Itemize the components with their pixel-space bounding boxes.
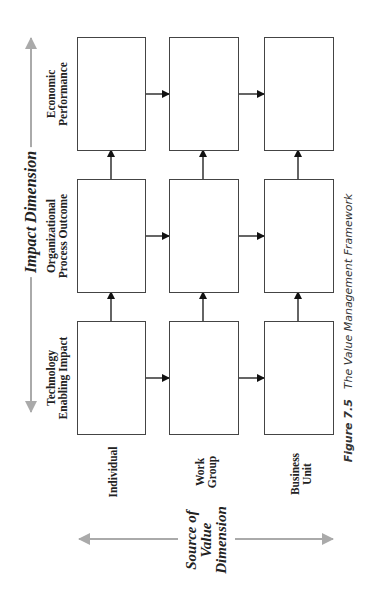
row-label-technology-enabling-impact: Technology Enabling Impact: [45, 337, 69, 420]
cell-economic-individual: [77, 37, 146, 151]
row-label-line: Performance: [57, 62, 69, 126]
col-label-individual: Individual: [107, 446, 119, 497]
source-label-line: Value: [199, 506, 214, 574]
value-management-framework-diagram: Impact Dimension Economic Performance Or…: [0, 0, 373, 607]
col-label-line: Unit: [301, 453, 313, 495]
col-label-line: Business: [289, 453, 301, 495]
col-label-business-unit: Business Unit: [289, 453, 313, 495]
figure-number: Figure 7.5: [342, 399, 355, 462]
row-label-economic-performance: Economic Performance: [45, 62, 69, 126]
impact-dimension-label: Impact Dimension: [22, 147, 40, 277]
cell-technology-business-unit: [264, 321, 334, 435]
row-label-line: Technology: [45, 337, 57, 420]
source-of-value-dimension-label: Source of Value Dimension: [184, 506, 229, 574]
col-label-work-group: Work Group: [194, 456, 218, 488]
col-label-line: Group: [206, 456, 218, 488]
cell-economic-work-group: [169, 37, 239, 151]
row-label-line: Economic: [45, 62, 57, 126]
source-label-line: Source of: [184, 506, 199, 574]
row-label-line: Enabling Impact: [57, 337, 69, 420]
cell-technology-individual: [77, 321, 146, 435]
col-label-line: Individual: [107, 446, 119, 497]
cell-technology-work-group: [169, 321, 239, 435]
cell-economic-business-unit: [264, 37, 334, 151]
row-label-line: Process Outcome: [57, 194, 69, 278]
cell-organizational-work-group: [169, 179, 239, 293]
row-label-line: Organizational: [45, 194, 57, 278]
row-label-organizational-process-outcome: Organizational Process Outcome: [45, 194, 69, 278]
cell-organizational-individual: [77, 179, 146, 293]
figure-title: The Value Management Framework: [342, 194, 355, 389]
cell-organizational-business-unit: [264, 179, 334, 293]
source-label-line: Dimension: [214, 506, 229, 574]
figure-caption: Figure 7.5The Value Management Framework: [342, 194, 355, 463]
col-label-line: Work: [194, 456, 206, 488]
